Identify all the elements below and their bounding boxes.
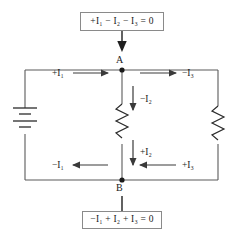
equation-box-top: +I₁ − I₂ − I₃ = 0 — [80, 12, 164, 31]
node-label-a: A — [116, 55, 123, 65]
battery-icon — [13, 108, 37, 127]
resistor-right-icon — [212, 106, 224, 140]
current-label-i3-top: −I₃ — [182, 69, 194, 79]
current-label-i3-bottom: +I₃ — [182, 161, 194, 171]
node-label-b: B — [116, 183, 123, 193]
resistor-middle-icon — [116, 104, 128, 138]
current-label-i1-bottom: −I₁ — [52, 161, 64, 171]
current-label-i1-top: +I₁ — [52, 69, 64, 79]
circuit-diagram: +I₁ − I₂ − I₃ = 0 −I₁ + I₂ + I₃ = 0 A B … — [0, 0, 243, 244]
equation-box-bottom: −I₁ + I₂ + I₃ = 0 — [82, 211, 162, 229]
junction-dot-a — [119, 67, 124, 72]
current-label-i2-lower: +I₂ — [140, 148, 152, 158]
circuit-artwork — [0, 0, 243, 244]
current-label-i2-upper: −I₂ — [140, 95, 152, 105]
